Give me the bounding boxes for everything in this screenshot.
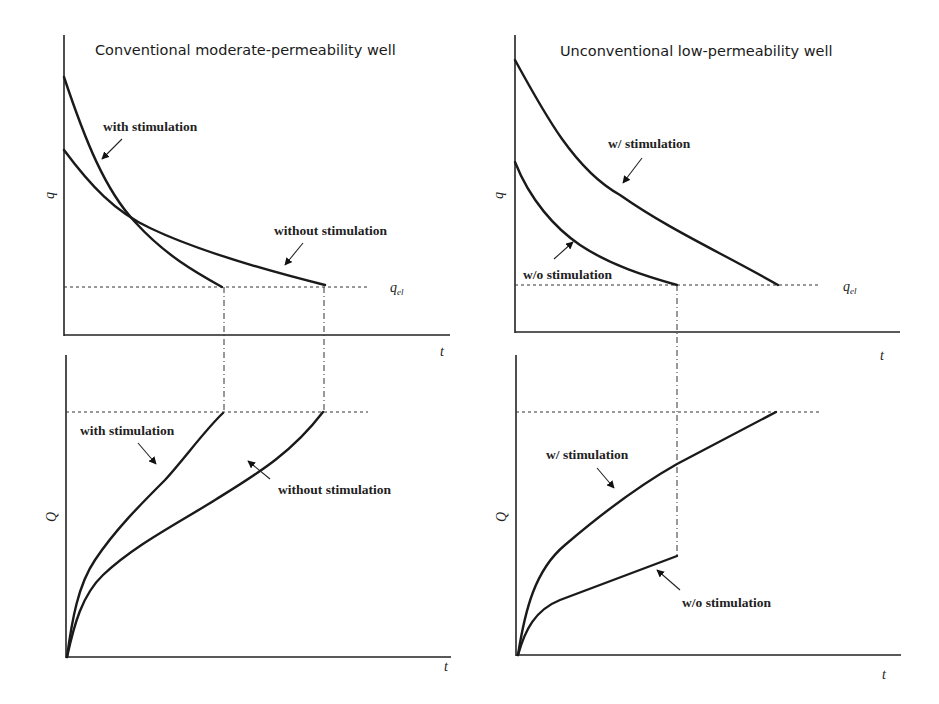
- panel-rate-conventional: Conventional moderate-permeability well …: [42, 35, 450, 359]
- panel-rate-unconventional: Unconventional low-permeability well q t…: [491, 35, 900, 363]
- rate-curve-with-stimulation: [64, 77, 222, 287]
- arrow-icon: [554, 242, 573, 259]
- arrow-icon: [657, 570, 680, 590]
- x-axis-label-t: t: [440, 344, 445, 359]
- x-axis-label-t: t: [444, 659, 449, 674]
- x-axis-label-t: t: [880, 348, 885, 363]
- arrow-icon: [102, 139, 122, 159]
- y-axis-label-Q: Q: [44, 512, 59, 522]
- y-axis-label-q: q: [491, 192, 506, 199]
- production-decline-diagram: Conventional moderate-permeability well …: [0, 0, 939, 704]
- label-with-stimulation: with stimulation: [103, 119, 198, 134]
- panel-cumulative-unconventional: Q t w/ stimulation w/o stimulation: [494, 355, 901, 682]
- arrow-icon: [285, 243, 303, 265]
- label-w-stimulation: w/ stimulation: [546, 447, 629, 462]
- economic-limit-label: qel: [843, 279, 857, 296]
- y-axis-label-q: q: [42, 192, 57, 199]
- rate-curve-with-stimulation: [515, 60, 778, 285]
- label-without-stimulation: without stimulation: [278, 482, 391, 497]
- cumulative-curve-without-stimulation: [67, 412, 323, 657]
- label-wo-stimulation: w/o stimulation: [682, 595, 771, 610]
- y-axis-label-Q: Q: [494, 512, 509, 522]
- cumulative-curve-with-stimulation: [67, 413, 223, 657]
- label-w-stimulation: w/ stimulation: [608, 136, 691, 151]
- label-without-stimulation: without stimulation: [274, 223, 387, 238]
- panel-cumulative-conventional: Q t with stimulation without stimulation: [44, 355, 451, 674]
- panel-title-conventional: Conventional moderate-permeability well: [95, 42, 396, 58]
- arrow-icon: [138, 443, 156, 464]
- label-with-stimulation: with stimulation: [80, 423, 175, 438]
- economic-limit-label: qel: [390, 280, 404, 297]
- x-axis-label-t: t: [882, 667, 887, 682]
- label-wo-stimulation: w/o stimulation: [523, 267, 612, 282]
- arrow-icon: [597, 468, 614, 488]
- arrow-icon: [623, 158, 642, 183]
- panel-title-unconventional: Unconventional low-permeability well: [560, 43, 833, 59]
